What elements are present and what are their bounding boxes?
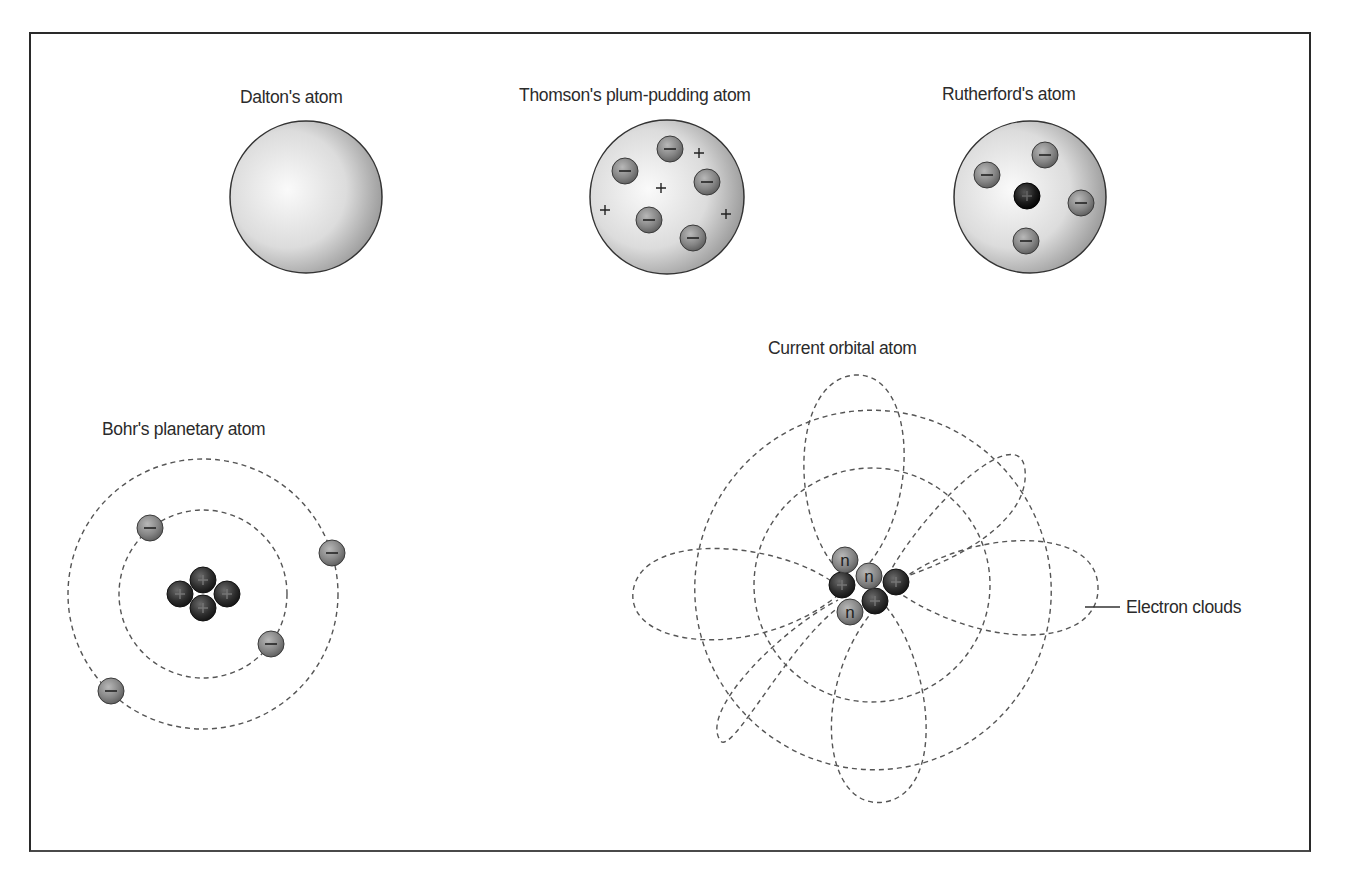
orbital-label: Current orbital atom <box>768 338 917 359</box>
proton-icon <box>883 569 909 595</box>
atom-models-diagram: n <box>0 0 1347 884</box>
proton-icon <box>167 581 193 607</box>
thomson-label: Thomson's plum-pudding atom <box>519 85 751 106</box>
bohr-label: Bohr's planetary atom <box>102 419 265 440</box>
electron-icon <box>137 515 163 541</box>
dalton-label: Dalton's atom <box>240 87 343 108</box>
electron-icon <box>694 169 720 195</box>
proton-icon <box>862 588 888 614</box>
electron-icon <box>680 225 706 251</box>
electron-clouds-label: Electron clouds <box>1126 597 1241 618</box>
electron-icon <box>98 678 124 704</box>
proton-icon <box>190 595 216 621</box>
proton-icon <box>829 572 855 598</box>
neutron-icon <box>832 547 858 573</box>
thomson-atom <box>590 120 744 274</box>
electron-icon <box>657 136 683 162</box>
dalton-atom <box>230 121 382 273</box>
electron-icon <box>612 158 638 184</box>
electron-icon <box>636 207 662 233</box>
electron-icon <box>974 162 1000 188</box>
electron-icon <box>1068 190 1094 216</box>
electron-icon <box>1032 142 1058 168</box>
electron-icon <box>1013 228 1039 254</box>
neutron-icon <box>856 563 882 589</box>
rutherford-atom <box>954 121 1106 273</box>
neutron-icon <box>837 599 863 625</box>
electron-icon <box>258 631 284 657</box>
electron-icon <box>319 540 345 566</box>
proton-icon <box>190 567 216 593</box>
rutherford-label: Rutherford's atom <box>942 84 1075 105</box>
nucleus-icon <box>1014 183 1040 209</box>
proton-icon <box>214 581 240 607</box>
